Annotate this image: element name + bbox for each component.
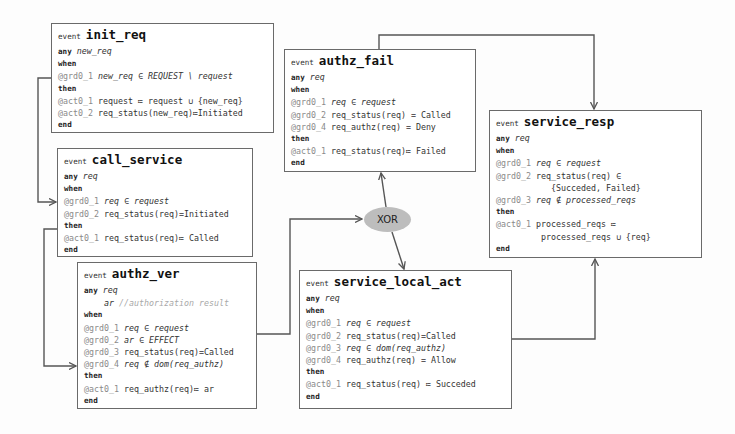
event-name: service_resp [524, 114, 614, 129]
event-box-service-resp: event service_resp any req when @grd0_1 … [489, 110, 702, 258]
event-name: call_service [92, 152, 182, 167]
event-name: authz_fail [319, 53, 394, 68]
event-box-init-req: event init_req any new_req when @grd0_1 … [51, 23, 274, 133]
event-name: init_req [86, 27, 146, 42]
xor-gateway: XOR [364, 207, 411, 232]
event-name: service_local_act [334, 274, 462, 289]
edge-xor-to-service-local-act [392, 232, 404, 269]
event-box-authz-fail: event authz_fail any req when @grd0_1 re… [284, 49, 476, 172]
event-box-authz-ver: event authz_ver any req ar //authorizati… [77, 262, 257, 409]
edge-service-local-act-to-service-resp [511, 259, 595, 339]
edge-xor-to-authz-fail [381, 173, 386, 207]
event-box-service-local-act: event service_local_act any req when @gr… [299, 270, 512, 409]
event-name: authz_ver [112, 266, 180, 281]
event-flow-diagram: event init_req any new_req when @grd0_1 … [0, 0, 735, 434]
event-box-call-service: event call_service any req when @grd0_1 … [57, 148, 253, 257]
